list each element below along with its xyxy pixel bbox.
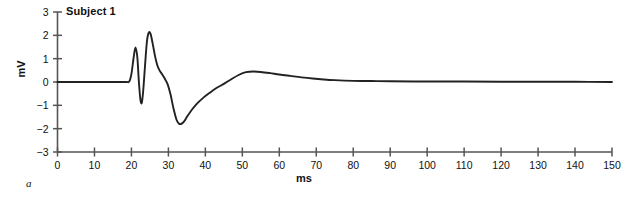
x-axis-tick-label: 100 bbox=[418, 159, 436, 171]
x-axis-tick-label: 140 bbox=[566, 159, 584, 171]
waveform-chart: 3210−1−2−3010203040506070809010011012013… bbox=[0, 0, 641, 197]
x-axis-tick-label: 70 bbox=[310, 159, 322, 171]
panel-letter: a bbox=[26, 177, 32, 189]
x-axis-tick-label: 130 bbox=[529, 159, 547, 171]
y-axis-label: mV bbox=[15, 47, 27, 91]
y-axis-tick-label: −1 bbox=[37, 99, 49, 111]
x-axis-tick-label: 90 bbox=[384, 159, 396, 171]
x-axis-tick-label: 30 bbox=[163, 159, 175, 171]
y-axis-tick-label: −3 bbox=[37, 146, 49, 158]
y-axis-tick-label: 0 bbox=[43, 76, 49, 88]
x-axis-tick-label: 50 bbox=[236, 159, 248, 171]
x-axis-tick-label: 10 bbox=[89, 159, 101, 171]
subject-annotation: Subject 1 bbox=[66, 5, 116, 17]
x-axis-tick-label: 80 bbox=[347, 159, 359, 171]
x-axis-tick-label: 120 bbox=[492, 159, 510, 171]
data-line-subject-1 bbox=[58, 32, 613, 124]
x-axis-tick-label: 110 bbox=[456, 159, 473, 171]
y-axis-tick-label: 1 bbox=[43, 53, 49, 65]
x-axis-tick-label: 0 bbox=[55, 159, 61, 171]
y-axis-tick-label: 2 bbox=[43, 29, 49, 41]
x-axis-label: ms bbox=[296, 172, 312, 184]
x-axis-tick-label: 40 bbox=[200, 159, 212, 171]
x-axis-tick-label: 60 bbox=[273, 159, 285, 171]
x-axis-tick-label: 150 bbox=[603, 159, 621, 171]
y-axis-tick-label: −2 bbox=[37, 123, 49, 135]
figure-panel-a: 3210−1−2−3010203040506070809010011012013… bbox=[0, 0, 641, 197]
y-axis-tick-label: 3 bbox=[43, 6, 49, 18]
x-axis-tick-label: 20 bbox=[126, 159, 138, 171]
